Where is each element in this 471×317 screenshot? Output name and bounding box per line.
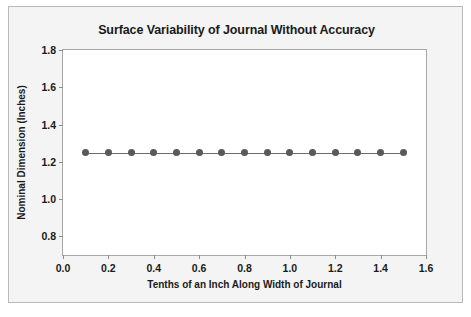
x-tick-mark [426,255,427,259]
x-axis-title: Tenths of an Inch Along Width of Journal [62,279,427,290]
y-tick-label: 1.2 [41,156,56,168]
series-data-point [332,149,339,156]
x-tick-mark [154,255,155,259]
x-tick-label: 0.0 [56,262,71,274]
series-data-point [377,149,384,156]
x-tick-label: 0.4 [146,262,161,274]
y-tick-mark [59,199,63,200]
series-data-point [309,149,316,156]
x-tick-label: 0.8 [237,262,252,274]
x-tick-mark [199,255,200,259]
x-tick-label: 0.6 [192,262,207,274]
y-axis-title: Nominal Dimension (Inches) [15,49,29,256]
series-data-point [354,149,361,156]
x-tick-mark [290,255,291,259]
y-tick-mark [59,236,63,237]
plot-area: 0.81.01.21.41.61.80.00.20.40.60.81.01.21… [62,49,427,256]
series-data-point [150,149,157,156]
plot-inner: 0.81.01.21.41.61.80.00.20.40.60.81.01.21… [63,50,426,255]
x-tick-mark [63,255,64,259]
series-data-point [286,149,293,156]
x-tick-label: 1.2 [328,262,343,274]
y-tick-label: 0.8 [41,230,56,242]
series-data-point [264,149,271,156]
x-tick-label: 1.4 [373,262,388,274]
series-data-point [400,149,407,156]
x-tick-label: 1.0 [283,262,298,274]
chart-title: Surface Variability of Journal Without A… [9,23,464,37]
series-data-point [241,149,248,156]
x-tick-label: 1.6 [419,262,434,274]
series-data-point [128,149,135,156]
x-tick-mark [245,255,246,259]
y-tick-label: 1.0 [41,193,56,205]
figure-frame: Surface Variability of Journal Without A… [8,6,463,303]
x-tick-label: 0.2 [101,262,116,274]
y-tick-label: 1.6 [41,81,56,93]
series-data-point [82,149,89,156]
y-tick-label: 1.4 [41,119,56,131]
y-tick-mark [59,162,63,163]
series-data-point [105,149,112,156]
x-tick-mark [108,255,109,259]
series-data-point [218,149,225,156]
y-tick-mark [59,125,63,126]
x-tick-mark [381,255,382,259]
x-tick-mark [335,255,336,259]
y-tick-mark [59,87,63,88]
series-data-point [173,149,180,156]
y-tick-label: 1.8 [41,44,56,56]
series-data-point [196,149,203,156]
y-tick-mark [59,50,63,51]
